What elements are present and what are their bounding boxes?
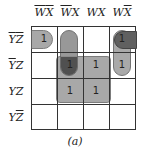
cell-r0-c2 [83,26,109,52]
var-w: W [86,6,97,19]
cell-r0-c3: 1 [109,26,135,52]
cell-r0-c1 [57,26,83,52]
cell-r2-c2: 1 [83,78,109,104]
row-header-y-bar-z-bar: YZ [2,33,30,46]
karnaugh-map-grid: 1 1 1 1 1 1 1 [31,26,136,130]
cell-r2-c0 [31,78,57,104]
var-x: X [98,6,106,19]
cell-r3-c2 [83,104,109,130]
figure-caption: (a) [60,135,90,148]
var-z: Z [16,59,24,72]
column-header-w-bar-x: WX [57,6,83,19]
cell-r2-c1: 1 [57,78,83,104]
var-x: X [46,6,54,19]
cell-r3-c1 [57,104,83,130]
row-header-y-bar-z: YZ [2,59,30,72]
row-header-y-z: YZ [2,85,30,98]
var-w: W [112,6,123,19]
var-z: Z [16,33,24,46]
var-y: Y [9,33,16,46]
var-w: W [60,6,71,19]
cell-r1-c2: 1 [83,52,109,78]
column-header-w-x: WX [83,6,109,19]
row-header-y-z-bar: YZ [2,111,30,124]
var-y: Y [9,85,16,98]
var-w: W [34,6,45,19]
var-y: Y [9,59,16,72]
var-x: X [124,6,132,19]
cell-r0-c0: 1 [31,26,57,52]
cell-r1-c0 [31,52,57,78]
cell-r1-c3: 1 [109,52,135,78]
var-y: Y [9,111,16,124]
cell-r2-c3 [109,78,135,104]
cell-r3-c0 [31,104,57,130]
column-header-w-x-bar: WX [109,6,135,19]
var-x: X [72,6,80,19]
column-header-w-bar-x-bar: WX [31,6,57,19]
var-z: Z [16,85,24,98]
cell-r1-c1: 1 [57,52,83,78]
var-z: Z [16,111,24,124]
cell-r3-c3 [109,104,135,130]
